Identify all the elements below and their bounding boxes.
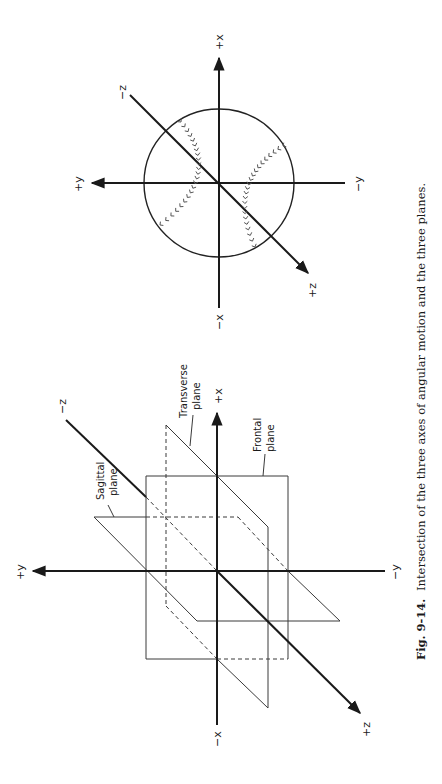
planes-label-neg-y: −y [389,564,402,580]
stitch-mark [196,167,201,170]
stitch-mark [160,222,163,226]
stitch-mark [245,227,250,230]
figure-9-14: +x −x +y −y +z −z [0,0,442,784]
stitch-mark [194,148,199,151]
stitch-mark [249,238,253,241]
stitch-mark [245,186,250,189]
stitch-mark [181,123,185,126]
stitch-mark [243,216,248,219]
caption-text: Intersection of the three axes of angula… [414,183,428,591]
sagittal-plane-label-line2: plane [108,468,119,496]
frontal-plane-label-line2: plane [265,424,276,452]
transverse-plane-label-line1: Transverse [178,364,189,419]
baseball-label-neg-z: −z [116,85,129,100]
planes-label-pos-y: +y [14,564,27,580]
stitch-mark [190,138,194,141]
sagittal-plane-label-line1: Sagittal [95,462,106,500]
planes-z-axis-neg [66,420,146,497]
stitch-mark [185,128,189,131]
stitch-mark [278,146,281,150]
stitch-mark [244,191,249,194]
stitch-mark [273,149,276,153]
stitch-mark [243,196,248,199]
stitch-mark [254,169,258,172]
baseball-label-pos-x: +x [213,34,226,50]
figure-number: Fig. 9-14. [414,599,428,660]
stitch-mark [196,171,201,174]
stitch-mark [192,185,196,188]
figure-caption: Fig. 9-14. Intersection of the three axe… [414,183,428,660]
stitch-mark [195,153,200,156]
stitch-mark [244,221,249,224]
stitch-mark [247,232,252,235]
stitch-mark [195,176,200,179]
stitch-mark [187,194,191,197]
baseball-label-pos-y: +y [72,176,85,192]
baseball-label-neg-x: −x [213,314,226,330]
stitch-mark [196,158,201,161]
planes-label-neg-x: −x [211,731,224,747]
stitch-mark [257,164,261,167]
stitch-mark [171,212,174,216]
stitch-mark [261,160,265,163]
baseball-label-neg-y: −y [352,176,365,192]
stitch-mark [252,244,256,247]
stitch-mark [269,153,272,157]
stitch-mark [176,208,179,211]
stitch-mark [166,217,169,221]
stitch-mark [243,201,248,203]
stitch-mark [184,199,188,202]
baseball-diagram: +x −x +y −y +z −z [72,34,365,330]
baseball-label-pos-z: +z [306,283,319,298]
stitch-mark [189,190,193,193]
stitch-mark [243,211,248,214]
stitch-mark [192,143,197,146]
transverse-plane-label-line2: plane [191,382,202,410]
stitch-mark [252,173,256,176]
stitch-mark [283,143,286,147]
planes-label-pos-z: +z [360,722,373,737]
stitch-mark [188,133,192,136]
stitch-mark [180,203,184,206]
planes-label-neg-z: −z [56,399,69,414]
frontal-plane-label-line1: Frontal [252,418,263,452]
stitch-mark [265,157,268,160]
stitch-mark [249,177,253,180]
planes-diagram: +x −x +y −y +z −z Sagittal plane Transve… [14,364,402,747]
planes-label-pos-x: +x [212,388,225,404]
